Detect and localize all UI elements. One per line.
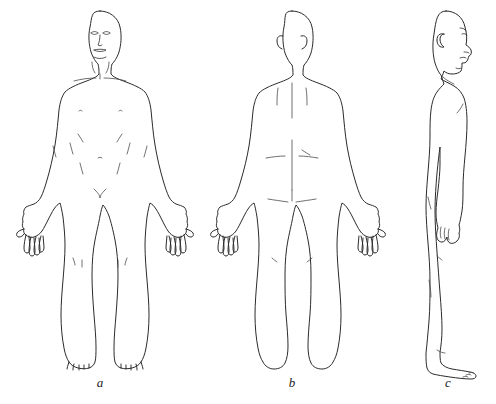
figures-canvas: [0, 0, 496, 404]
figure-b-gluteal-fold-right: [296, 199, 316, 202]
figure-c-ankle-line: [437, 350, 445, 353]
figure-a-right-eye: [103, 32, 110, 34]
figure-c-chest-line: [457, 104, 463, 113]
figure-a-flank-right: [127, 143, 130, 154]
figure-b-posterior: [211, 11, 386, 369]
figure-a-neck-right: [106, 62, 109, 73]
figure-a-left-eye-lower: [91, 33, 98, 35]
figure-a-lower-abdomen-right: [117, 163, 120, 174]
figure-a-left-eye: [91, 32, 98, 34]
figure-label-c: c: [434, 375, 462, 391]
figure-a-flank-left: [70, 143, 73, 154]
figure-a-right-eye-lower: [103, 33, 110, 35]
figure-c-outline: [426, 11, 476, 379]
figure-a-nipple-left: [79, 110, 82, 111]
figure-a-knee-left-1: [73, 258, 75, 265]
figure-a-nose: [98, 35, 102, 46]
figure-a-rib-left: [78, 134, 83, 142]
figure-b-left-ear: [277, 36, 283, 49]
figure-c-hand-fingers: [440, 227, 449, 240]
figure-a-face: [91, 32, 110, 59]
figure-a-anterior: [17, 11, 194, 370]
figure-a-navel: [98, 157, 102, 158]
figure-b-scapula-left: [277, 88, 278, 105]
figure-c-nostril: [464, 52, 469, 53]
figure-a-mouth: [94, 49, 106, 51]
figure-a-knee-right-1: [125, 258, 127, 265]
figure-b-waist-left: [266, 156, 285, 158]
figure-c-buttock-crease: [428, 197, 431, 209]
figure-c-chin-crease: [456, 68, 461, 69]
figure-c-lips: [460, 57, 466, 58]
figure-b-surface-details: [266, 83, 318, 262]
figure-a-groin: [94, 189, 106, 198]
figure-label-a: a: [86, 375, 114, 391]
anatomical-figure-plate: [0, 0, 496, 404]
figure-b-knee-crease-right: [307, 258, 312, 262]
figure-a-rib-right: [117, 134, 122, 142]
figure-c-ear: [437, 34, 444, 47]
figure-b-right-ear: [301, 36, 307, 49]
figure-a-elbow-right: [144, 146, 147, 157]
figure-c-lateral: [426, 11, 476, 379]
figure-b-gluteal-fold-left: [268, 199, 288, 202]
figure-a-chin: [94, 57, 106, 59]
figure-c-surface-details: [428, 77, 463, 353]
figure-a-clavicle-left: [74, 78, 96, 81]
figure-a-surface-details: [53, 62, 147, 267]
figure-a-nipple-right: [119, 110, 122, 111]
figure-a-neck-left: [92, 62, 95, 73]
figure-b-dimple-right: [302, 150, 310, 155]
figure-a-lower-abdomen-left: [80, 163, 83, 174]
figure-b-waist-right: [299, 156, 318, 158]
figure-b-outline: [216, 11, 379, 369]
figure-b-scapula-right: [306, 88, 307, 105]
figure-b-knee-crease-left: [272, 258, 277, 262]
figure-label-b: b: [278, 375, 306, 391]
